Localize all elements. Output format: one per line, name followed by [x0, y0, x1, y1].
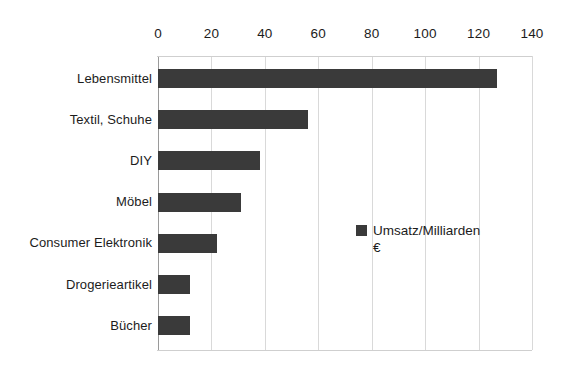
bar-0 [158, 69, 497, 88]
bar-2 [158, 151, 260, 170]
bars [0, 0, 568, 367]
legend-color-swatch [356, 225, 367, 236]
legend-label: Umsatz/Milliarden € [373, 222, 491, 256]
bar-5 [158, 275, 190, 294]
legend: Umsatz/Milliarden € [356, 222, 491, 256]
bar-6 [158, 316, 190, 335]
bar-3 [158, 193, 241, 212]
bar-4 [158, 234, 217, 253]
bar-1 [158, 110, 308, 129]
bar-chart: 020406080100120140 LebensmittelTextil, S… [0, 0, 568, 367]
